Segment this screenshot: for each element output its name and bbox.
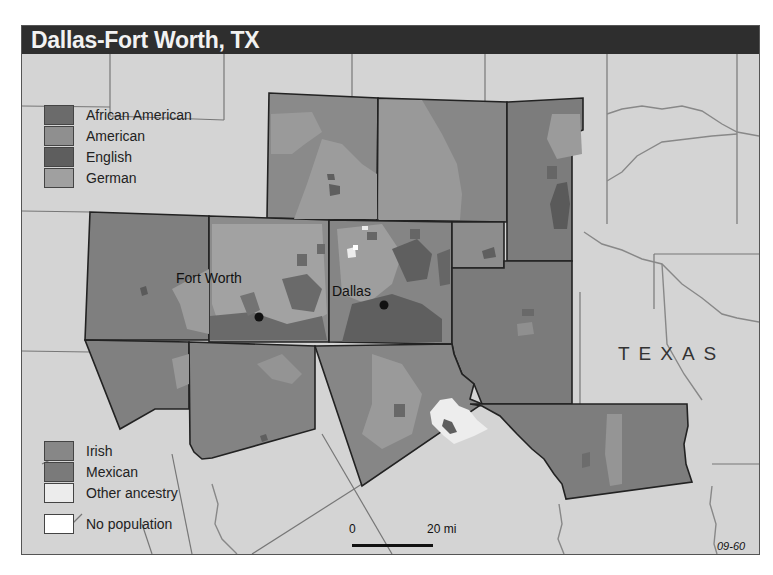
legend-label: American — [86, 128, 145, 144]
legend-label: Irish — [86, 443, 112, 459]
county-southeast — [470, 404, 692, 499]
legend-item-african-american: African American — [44, 104, 192, 125]
legend-swatch — [44, 483, 74, 503]
legend-item-no-population: No population — [44, 513, 178, 534]
legend-item-german: German — [44, 167, 192, 188]
city-label-dallas: Dallas — [332, 283, 371, 299]
map-frame: Dallas-Fort Worth, TX — [21, 25, 760, 555]
legend-swatch — [44, 147, 74, 167]
legend-label: English — [86, 149, 132, 165]
title-bar: Dallas-Fort Worth, TX — [22, 26, 759, 54]
legend-label: African American — [86, 107, 192, 123]
dallas-marker — [380, 301, 389, 310]
legend-swatch — [44, 514, 74, 534]
legend-swatch — [44, 105, 74, 125]
legend-item-mexican: Mexican — [44, 461, 178, 482]
legend-item-other-ancestry: Other ancestry — [44, 482, 178, 503]
legend-top: African American American English German — [44, 104, 192, 188]
map-title: Dallas-Fort Worth, TX — [31, 27, 259, 53]
legend-item-irish: Irish — [44, 440, 178, 461]
city-label-fort-worth: Fort Worth — [176, 270, 242, 286]
legend-swatch — [44, 462, 74, 482]
legend-label: Mexican — [86, 464, 138, 480]
legend-label: Other ancestry — [86, 485, 178, 501]
state-label: TEXAS — [618, 343, 725, 365]
county-hood — [85, 340, 189, 429]
map-id: 09-60 — [717, 540, 745, 552]
legend-bottom: Irish Mexican Other ancestry No populati… — [44, 440, 178, 534]
legend-swatch — [44, 168, 74, 188]
legend-swatch — [44, 441, 74, 461]
scale-start-label: 0 — [349, 522, 356, 536]
scale-bar — [352, 544, 433, 547]
legend-label: German — [86, 170, 137, 186]
scale-end-label: 20 mi — [427, 522, 456, 536]
legend-swatch — [44, 126, 74, 146]
fort-worth-marker — [255, 313, 264, 322]
county-rockwall — [452, 222, 504, 268]
county-johnson — [189, 342, 315, 459]
legend-item-american: American — [44, 125, 192, 146]
legend-label: No population — [86, 516, 172, 532]
legend-item-english: English — [44, 146, 192, 167]
